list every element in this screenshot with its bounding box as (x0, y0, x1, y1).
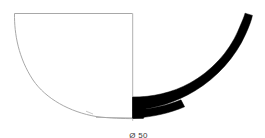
diameter-label-text: Ø 50 (129, 131, 148, 138)
profile-diagram (0, 0, 265, 138)
base-line (96, 117, 133, 118)
pottery-profile-drawing: Ø 50 (0, 0, 265, 138)
diameter-annotation: Ø 50 (0, 121, 265, 138)
